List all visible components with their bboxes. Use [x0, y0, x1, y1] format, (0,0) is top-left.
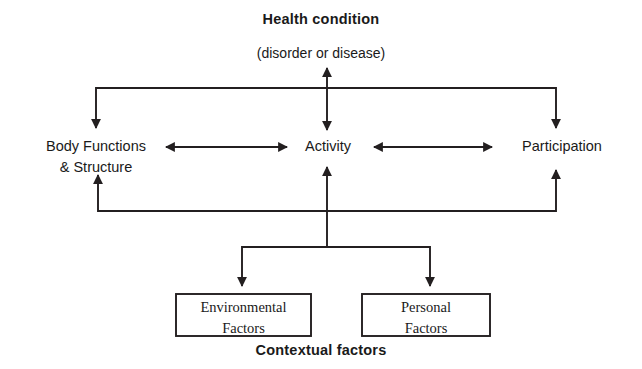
node-participation: Participation	[486, 136, 638, 157]
connector-contextual-to-participation	[327, 170, 556, 211]
node-environmental-factors: Environmental Factors	[176, 297, 311, 338]
connector-health-to-participation	[327, 88, 556, 128]
connector-contextual-to-body-functions	[98, 175, 327, 211]
health-condition-title: Health condition	[0, 9, 642, 30]
connector-activity-to-personal-factors	[327, 247, 430, 286]
connector-activity-to-environmental-factors	[242, 247, 327, 286]
node-activity: Activity	[262, 136, 394, 157]
node-body-functions-and-structure: Body Functions & Structure	[10, 136, 182, 177]
health-condition-subtitle: (disorder or disease)	[0, 44, 642, 64]
contextual-factors-caption: Contextual factors	[0, 340, 642, 361]
icf-diagram: Health condition (disorder or disease) B…	[0, 0, 642, 369]
connector-health-to-body-functions	[96, 88, 327, 128]
node-personal-factors: Personal Factors	[362, 297, 490, 338]
